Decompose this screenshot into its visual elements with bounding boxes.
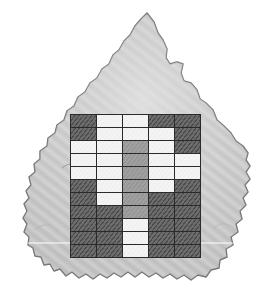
- heatmap-cell: [148, 140, 175, 154]
- heatmap-cell: [70, 140, 97, 154]
- heatmap-cell: [96, 244, 123, 258]
- heatmap-cell: [148, 231, 175, 245]
- heatmap-cell: [70, 179, 97, 193]
- heatmap-cell: [96, 205, 123, 219]
- heatmap-cell: [122, 244, 149, 258]
- heatmap-cell: [96, 179, 123, 193]
- heatmap-cell: [174, 166, 201, 180]
- heatmap-cell: [122, 127, 149, 141]
- heatmap-cell: [96, 140, 123, 154]
- heatmap-cell: [70, 231, 97, 245]
- heatmap-cell: [122, 153, 149, 167]
- heatmap-cell: [96, 218, 123, 232]
- heatmap-cell: [70, 218, 97, 232]
- heatmap-cell: [174, 205, 201, 219]
- heatmap-cell: [70, 127, 97, 141]
- heatmap-cell: [148, 114, 175, 128]
- heatmap-cell: [148, 218, 175, 232]
- heatmap-cell: [96, 166, 123, 180]
- heatmap-cell: [96, 231, 123, 245]
- heatmap-cell: [174, 244, 201, 258]
- heatmap-cell: [122, 114, 149, 128]
- heatmap-cell: [122, 218, 149, 232]
- heatmap-cell: [174, 179, 201, 193]
- heatmap-cell: [122, 166, 149, 180]
- heatmap-cell: [148, 205, 175, 219]
- heatmap-grid: [71, 115, 200, 257]
- heatmap-cell: [122, 205, 149, 219]
- heatmap-cell: [148, 153, 175, 167]
- heatmap-cell: [122, 231, 149, 245]
- heatmap-cell: [174, 218, 201, 232]
- heatmap-cell: [96, 114, 123, 128]
- heatmap-cell: [122, 179, 149, 193]
- heatmap-cell: [174, 153, 201, 167]
- heatmap-cell: [96, 153, 123, 167]
- heatmap-cell: [70, 153, 97, 167]
- figure-panel: [0, 0, 276, 300]
- heatmap-cell: [96, 127, 123, 141]
- heatmap-cell: [70, 205, 97, 219]
- heatmap-cell: [174, 114, 201, 128]
- heatmap-cell: [122, 140, 149, 154]
- heatmap-cell: [148, 127, 175, 141]
- heatmap-cell: [148, 192, 175, 206]
- heatmap-cell: [70, 114, 97, 128]
- heatmap-cell: [174, 192, 201, 206]
- heatmap-cell: [70, 244, 97, 258]
- heatmap-cell: [148, 244, 175, 258]
- heatmap-cell: [174, 231, 201, 245]
- heatmap-cell: [174, 140, 201, 154]
- heatmap-cell: [122, 192, 149, 206]
- heatmap-cell: [96, 192, 123, 206]
- heatmap-cell: [70, 192, 97, 206]
- heatmap-cell: [148, 179, 175, 193]
- heatmap-cell: [174, 127, 201, 141]
- heatmap-cell: [148, 166, 175, 180]
- heatmap-cell: [70, 166, 97, 180]
